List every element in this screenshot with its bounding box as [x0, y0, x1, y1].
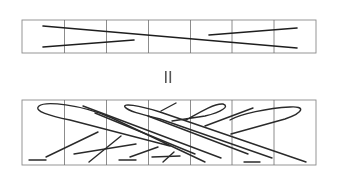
- tangle-loop-left: [38, 104, 205, 162]
- tangle-short-stroke: [152, 156, 180, 157]
- top-right-short-stroke: [209, 28, 297, 35]
- parallel-bar-left: [165, 71, 167, 83]
- parallel-bar-right: [170, 71, 172, 83]
- bottom-panel: [22, 100, 316, 165]
- bottom-panel-frame: [22, 100, 316, 165]
- top-panel: [22, 20, 316, 53]
- tangle-diagonal-stroke: [148, 116, 248, 154]
- diagram: [0, 0, 338, 175]
- parallel-symbol: [165, 71, 171, 83]
- tangle-short-stroke: [205, 108, 253, 126]
- tangle-loop-right-large: [230, 107, 301, 134]
- top-left-short-stroke: [43, 40, 134, 47]
- tangle-short-stroke: [74, 144, 136, 154]
- tangle-short-stroke: [161, 103, 176, 111]
- tangle-short-stroke: [46, 132, 98, 157]
- tangle-short-stroke: [130, 147, 158, 157]
